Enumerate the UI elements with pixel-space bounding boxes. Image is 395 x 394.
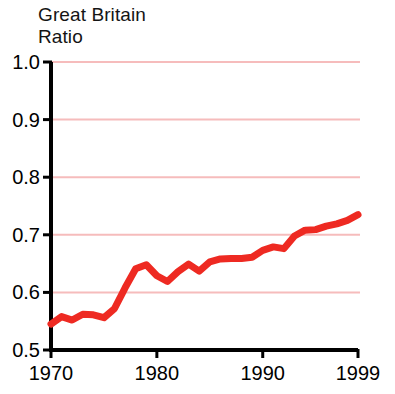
y-axis-tick-labels: 0.50.60.70.80.91.0 — [12, 51, 40, 361]
x-axis-tick-label: 1999 — [336, 362, 381, 384]
series-line — [51, 215, 358, 324]
x-axis-tick-label: 1980 — [135, 362, 180, 384]
chart-axes — [49, 62, 358, 350]
x-axis-tick-labels: 1970198019901999 — [29, 362, 381, 384]
line-chart-plot: 0.50.60.70.80.91.0 1970198019901999 — [0, 0, 395, 394]
y-axis-tick-label: 0.7 — [12, 224, 40, 246]
data-series — [51, 215, 358, 324]
y-axis-tick-label: 0.5 — [12, 339, 40, 361]
y-axis-tick-label: 1.0 — [12, 51, 40, 73]
chart-container: Great Britain Ratio 0.50.60.70.80.91.0 1… — [0, 0, 395, 394]
x-axis-tick-label: 1990 — [240, 362, 285, 384]
y-axis-tick-label: 0.8 — [12, 166, 40, 188]
y-axis-tick-label: 0.9 — [12, 109, 40, 131]
x-axis-tick-label: 1970 — [29, 362, 74, 384]
gridlines — [51, 62, 360, 292]
y-axis-tick-label: 0.6 — [12, 281, 40, 303]
